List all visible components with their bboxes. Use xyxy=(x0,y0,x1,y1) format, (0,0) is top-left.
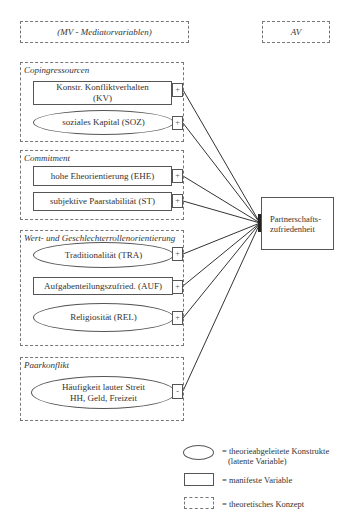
sign-label: + xyxy=(175,119,180,127)
variable-label: soziales Kapital (SOZ) xyxy=(62,117,144,128)
outcome-partnerschaftszufriedenheit: Partnerschafts- zufriedenheit xyxy=(261,197,334,250)
sign-label: - xyxy=(176,388,179,396)
variable-st: subjektive Paarstabilität (ST) xyxy=(33,192,172,211)
sign-box: + xyxy=(172,83,183,97)
variable-label: Aufgabenteilungszufried. (AUF) xyxy=(44,281,162,292)
variable-label: subjektive Paarstabilität (ST) xyxy=(50,196,155,207)
outcome-label: zufriedenheit xyxy=(270,224,333,234)
legend-label: = theorieabgeleitete Konstrukte xyxy=(222,446,329,456)
group-title: Copingressourcen xyxy=(24,65,89,76)
sign-label: + xyxy=(175,197,180,205)
variable-ehe: hohe Eheorientierung (EHE) xyxy=(33,166,172,186)
legend-rect-icon xyxy=(184,473,214,486)
variable-soz: soziales Kapital (SOZ) xyxy=(33,110,174,135)
legend-ellipse-icon xyxy=(183,445,214,460)
variable-label: Traditionalität (TRA) xyxy=(65,250,142,261)
variable-kv: Konstr. Konfliktverhalten (KV) xyxy=(33,81,172,105)
variable-label: Religiosität (REL) xyxy=(70,312,137,323)
sign-box: + xyxy=(172,169,183,183)
sign-label: + xyxy=(175,250,180,258)
legend-rect-text: = manifeste Variable xyxy=(222,475,292,485)
variable-streit: Häufigkeit lauter Streit HH, Geld, Freiz… xyxy=(31,376,176,409)
variable-label: (KV) xyxy=(93,93,112,104)
sign-box: + xyxy=(172,116,183,130)
sign-label: + xyxy=(175,314,180,322)
sign-box: + xyxy=(172,280,183,294)
sign-box: - xyxy=(172,384,183,399)
sign-label: + xyxy=(175,172,180,180)
legend-dashed-text: = theoretisches Konzept xyxy=(222,499,304,509)
sign-box: + xyxy=(172,247,183,261)
legend-ellipse-text: = theorieabgeleitete Konstrukte (latente… xyxy=(222,446,329,466)
sign-label: + xyxy=(175,283,180,291)
outcome-label: Partnerschafts- xyxy=(270,214,333,224)
variable-label: Konstr. Konfliktverhalten xyxy=(56,82,148,93)
legend-label: (latente Variable) xyxy=(222,456,329,466)
group-title: Paarkonflikt xyxy=(24,360,69,371)
variable-label: Häufigkeit lauter Streit xyxy=(62,382,145,393)
sign-box: + xyxy=(172,194,183,208)
legend-dashed-icon xyxy=(184,497,214,509)
variable-auf: Aufgabenteilungszufried. (AUF) xyxy=(33,277,173,295)
variable-label: HH, Geld, Freizeit xyxy=(70,393,137,404)
sign-label: + xyxy=(175,86,180,94)
variable-tra: Traditionalität (TRA) xyxy=(33,242,174,268)
variable-rel: Religiosität (REL) xyxy=(33,303,174,332)
variable-label: hohe Eheorientierung (EHE) xyxy=(51,171,154,182)
group-title: Commitment xyxy=(24,153,70,164)
sign-box: + xyxy=(172,311,183,325)
